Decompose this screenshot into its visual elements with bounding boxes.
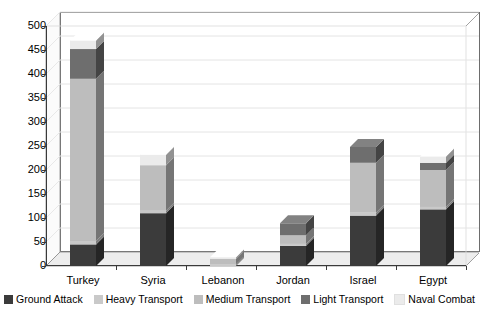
legend-label: Heavy Transport [106, 294, 183, 305]
legend-item[interactable]: Light Transport [301, 294, 383, 305]
legend-label: Ground Attack [16, 294, 83, 305]
chart-legend: Ground AttackHeavy TransportMedium Trans… [0, 292, 479, 306]
x-axis-tick-label: Lebanon [188, 274, 258, 286]
x-axis-tick-mark [466, 266, 467, 270]
legend-label: Medium Transport [206, 294, 291, 305]
legend-swatch-icon [94, 295, 103, 304]
legend-swatch-icon [301, 295, 310, 304]
legend-swatch-icon [4, 295, 13, 304]
legend-swatch-icon [394, 294, 405, 305]
legend-item[interactable]: Medium Transport [194, 294, 291, 305]
x-axis-tick-mark [326, 266, 327, 270]
x-axis-tick-label: Jordan [258, 274, 328, 286]
legend-item[interactable]: Heavy Transport [94, 294, 183, 305]
x-axis-tick-mark [396, 266, 397, 270]
x-axis-tick-mark [116, 266, 117, 270]
x-axis-tick-label: Syria [118, 274, 188, 286]
legend-swatch-icon [194, 295, 203, 304]
x-axis-tick-mark [256, 266, 257, 270]
x-axis-tick-label: Egypt [398, 274, 468, 286]
x-axis-tick-label: Turkey [48, 274, 118, 286]
x-axis-tick-mark [186, 266, 187, 270]
legend-item[interactable]: Ground Attack [4, 294, 83, 305]
legend-label: Light Transport [313, 294, 383, 305]
legend-label: Naval Combat [408, 294, 475, 305]
x-axis-tick-label: Israel [328, 274, 398, 286]
legend-item[interactable]: Naval Combat [394, 294, 475, 305]
